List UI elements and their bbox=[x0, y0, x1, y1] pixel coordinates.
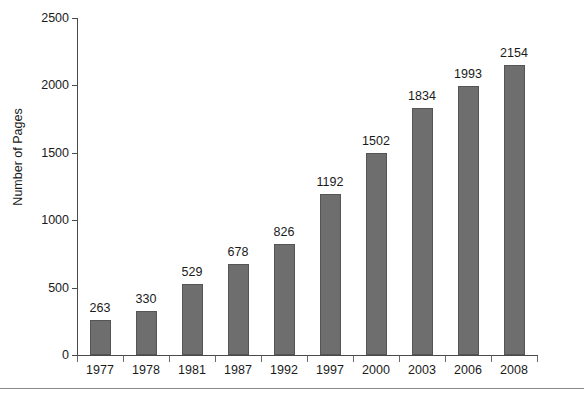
x-tick-label-2003: 2003 bbox=[399, 364, 445, 377]
x-tick-label-1977: 1977 bbox=[77, 364, 123, 377]
x-boundary-tick-1 bbox=[123, 356, 124, 362]
x-boundary-tick-10 bbox=[537, 356, 538, 362]
bar-value-label-2008: 2154 bbox=[484, 47, 544, 60]
bar-value-label-1997: 1192 bbox=[300, 176, 360, 189]
x-boundary-tick-3 bbox=[215, 356, 216, 362]
bar-1981 bbox=[182, 284, 203, 355]
y-tick-label-0: 0 bbox=[21, 349, 69, 362]
x-boundary-tick-6 bbox=[353, 356, 354, 362]
x-boundary-tick-9 bbox=[491, 356, 492, 362]
x-tick-label-2008: 2008 bbox=[491, 364, 537, 377]
bar-2008 bbox=[504, 65, 525, 355]
y-tick-label-2500: 2500 bbox=[21, 12, 69, 25]
bar-2006 bbox=[458, 86, 479, 355]
x-boundary-tick-5 bbox=[307, 356, 308, 362]
x-boundary-tick-8 bbox=[445, 356, 446, 362]
bar-1977 bbox=[90, 320, 111, 355]
bar-value-label-1978: 330 bbox=[116, 293, 176, 306]
bar-value-label-1992: 826 bbox=[254, 226, 314, 239]
bar-value-label-1981: 529 bbox=[162, 266, 222, 279]
x-tick-label-1981: 1981 bbox=[169, 364, 215, 377]
x-tick-label-1987: 1987 bbox=[215, 364, 261, 377]
bar-2003 bbox=[412, 108, 433, 355]
bar-1992 bbox=[274, 244, 295, 355]
x-boundary-tick-7 bbox=[399, 356, 400, 362]
footer-rule bbox=[0, 388, 584, 389]
x-tick-label-1997: 1997 bbox=[307, 364, 353, 377]
bar-2000 bbox=[366, 153, 387, 355]
x-tick-label-1978: 1978 bbox=[123, 364, 169, 377]
bar-1997 bbox=[320, 194, 341, 355]
bar-value-label-2003: 1834 bbox=[392, 90, 452, 103]
x-boundary-tick-2 bbox=[169, 356, 170, 362]
y-tick-label-2000: 2000 bbox=[21, 79, 69, 92]
bar-1978 bbox=[136, 311, 157, 355]
x-tick-label-1992: 1992 bbox=[261, 364, 307, 377]
y-tick-label-1500: 1500 bbox=[21, 147, 69, 160]
y-tick-label-1000: 1000 bbox=[21, 214, 69, 227]
bar-1987 bbox=[228, 264, 249, 355]
x-tick-label-2006: 2006 bbox=[445, 364, 491, 377]
x-boundary-tick-4 bbox=[261, 356, 262, 362]
bar-chart-figure: Number of Pages 05001000150020002500 197… bbox=[0, 0, 584, 400]
bar-value-label-2006: 1993 bbox=[438, 68, 498, 81]
y-tick-label-500: 500 bbox=[21, 282, 69, 295]
x-tick-label-2000: 2000 bbox=[353, 364, 399, 377]
bar-value-label-1987: 678 bbox=[208, 246, 268, 259]
bar-value-label-2000: 1502 bbox=[346, 135, 406, 148]
x-boundary-tick-0 bbox=[77, 356, 78, 362]
